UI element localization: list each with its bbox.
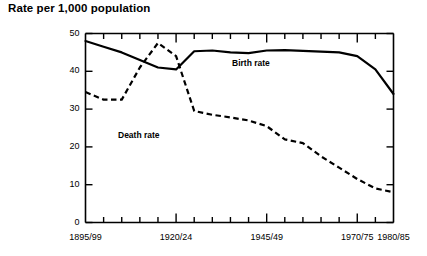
series-label-death-rate: Death rate — [118, 130, 160, 140]
y-tick-label: 10 — [58, 179, 80, 189]
chart-container: Rate per 1,000 population 01020304050 18… — [0, 0, 427, 256]
y-tick-label: 20 — [58, 141, 80, 151]
x-tick-label: 1980/85 — [359, 232, 427, 242]
y-tick-label: 30 — [58, 103, 80, 113]
x-tick-label: 1945/49 — [232, 232, 302, 242]
y-tick-label: 40 — [58, 65, 80, 75]
x-tick-label: 1895/99 — [51, 232, 121, 242]
series-label-birth-rate: Birth rate — [232, 58, 270, 68]
y-tick-label: 0 — [58, 217, 80, 227]
y-tick-label: 50 — [58, 28, 80, 38]
x-tick-label: 1920/24 — [141, 232, 211, 242]
